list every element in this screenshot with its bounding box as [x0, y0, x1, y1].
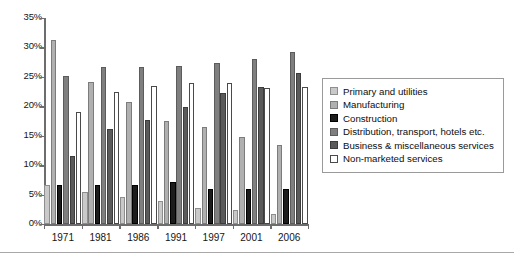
y-tick-label: 30%	[8, 40, 42, 51]
bar	[271, 214, 276, 224]
x-tick-mark	[233, 224, 234, 229]
legend-label: Manufacturing	[343, 99, 404, 110]
legend-item[interactable]: Manufacturing	[330, 99, 497, 111]
bar	[302, 87, 307, 224]
x-tick-mark	[157, 224, 158, 229]
y-tick-label: 15%	[8, 129, 42, 140]
x-tick-label: 1971	[52, 232, 74, 243]
legend-label: Business & miscellaneous services	[343, 140, 494, 151]
y-tick-label: 0%	[8, 217, 42, 228]
x-tick-mark	[308, 224, 309, 229]
legend-label: Primary and utilities	[343, 86, 428, 97]
x-tick-label: 1986	[127, 232, 149, 243]
chart-page: 0%5%10%15%20%25%30%35% 19711981198619911…	[0, 0, 514, 264]
plot-area: 0%5%10%15%20%25%30%35% 19711981198619911…	[44, 18, 308, 224]
x-tick-label: 1997	[203, 232, 225, 243]
legend-swatch-icon	[330, 101, 338, 109]
legend-swatch-icon	[330, 114, 338, 122]
legend-swatch-icon	[330, 155, 338, 163]
y-tick-label: 10%	[8, 158, 42, 169]
bar-group	[44, 18, 308, 224]
x-tick-label: 2001	[240, 232, 262, 243]
legend-item[interactable]: Business & miscellaneous services	[330, 139, 497, 151]
legend-label: Construction	[343, 113, 397, 124]
x-tick-label: 1991	[165, 232, 187, 243]
y-tick-label: 5%	[8, 188, 42, 199]
bar	[290, 52, 295, 224]
legend-label: Non-marketed services	[343, 153, 443, 164]
x-tick-mark	[82, 224, 83, 229]
y-tick-label: 25%	[8, 70, 42, 81]
bar	[283, 189, 288, 224]
legend-label: Distribution, transport, hotels etc.	[343, 126, 485, 137]
chart-legend: Primary and utilitiesManufacturingConstr…	[322, 78, 504, 173]
x-tick-label: 1981	[89, 232, 111, 243]
x-tick-mark	[119, 224, 120, 229]
legend-item[interactable]: Construction	[330, 112, 497, 124]
x-axis-line	[44, 224, 308, 226]
legend-item[interactable]: Primary and utilities	[330, 85, 497, 97]
legend-item[interactable]: Distribution, transport, hotels etc.	[330, 126, 497, 138]
legend-swatch-icon	[330, 141, 338, 149]
x-tick-mark	[195, 224, 196, 229]
y-tick-label: 20%	[8, 99, 42, 110]
legend-item[interactable]: Non-marketed services	[330, 153, 497, 165]
legend-swatch-icon	[330, 87, 338, 95]
x-tick-mark	[44, 224, 45, 229]
bar	[296, 73, 301, 224]
bottom-divider	[0, 252, 514, 253]
legend-swatch-icon	[330, 128, 338, 136]
x-tick-mark	[270, 224, 271, 229]
bar	[277, 145, 282, 224]
y-tick-label: 35%	[8, 11, 42, 22]
x-tick-label: 2006	[278, 232, 300, 243]
